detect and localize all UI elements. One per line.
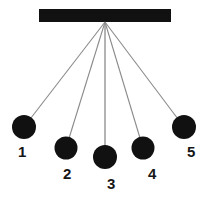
pendulum-diagram: 1 2 3 4 5 xyxy=(0,0,210,199)
string-5 xyxy=(105,22,184,127)
support-bar xyxy=(39,9,171,22)
bob-1 xyxy=(12,115,36,139)
string-2 xyxy=(66,22,105,148)
bob-label-2: 2 xyxy=(63,165,71,182)
bob-4 xyxy=(132,137,155,160)
pendulum-bobs xyxy=(12,115,196,169)
pendulum-strings xyxy=(24,22,184,157)
bob-3 xyxy=(93,145,117,169)
bob-label-3: 3 xyxy=(107,175,115,192)
string-1 xyxy=(24,22,105,127)
bob-label-5: 5 xyxy=(187,143,195,160)
bob-2 xyxy=(55,137,78,160)
bob-label-4: 4 xyxy=(148,165,157,182)
bob-label-1: 1 xyxy=(18,143,26,160)
bob-5 xyxy=(172,115,196,139)
pendulum-diagram-canvas: 1 2 3 4 5 xyxy=(0,0,210,199)
string-4 xyxy=(105,22,143,148)
